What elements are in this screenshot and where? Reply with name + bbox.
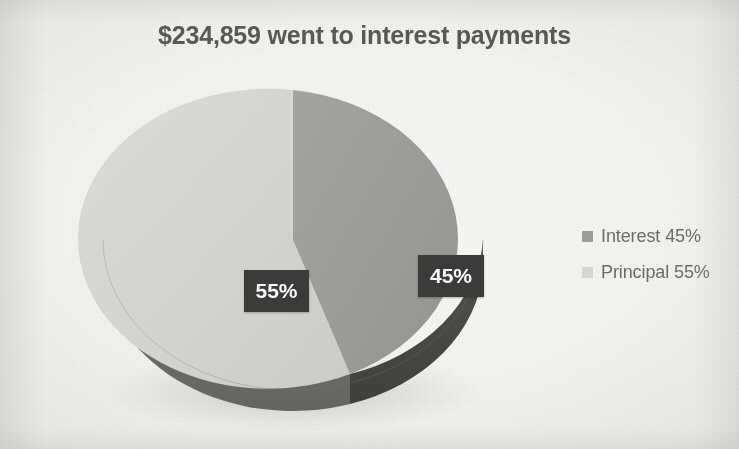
legend-swatch-principal-icon: [582, 267, 593, 278]
data-label-interest: 45%: [418, 255, 484, 297]
chart-title: $234,859 went to interest payments: [0, 21, 739, 50]
legend-swatch-interest-icon: [582, 231, 593, 242]
legend-item-interest[interactable]: Interest 45%: [582, 218, 734, 254]
chart-canvas: $234,859 went to interest payments: [0, 0, 739, 449]
pie-chart: 55% 45%: [78, 62, 518, 432]
legend-item-principal[interactable]: Principal 55%: [582, 254, 734, 290]
legend-label-principal: Principal 55%: [601, 262, 710, 283]
chart-legend: Interest 45% Principal 55%: [582, 218, 734, 290]
pie-chart-graphic: [78, 62, 518, 432]
data-label-principal: 55%: [244, 270, 309, 312]
legend-label-interest: Interest 45%: [601, 226, 701, 247]
